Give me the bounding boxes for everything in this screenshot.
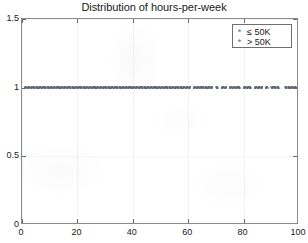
y-tick-label: 0.5 [0, 150, 19, 160]
x-tick-label: 100 [283, 227, 308, 237]
y-tick-label: 1 [0, 82, 19, 92]
x-tick-label: 40 [117, 227, 147, 237]
x-tick-label: 0 [6, 227, 36, 237]
y-tick-label: 1.5 [0, 13, 19, 23]
legend-item-0[interactable]: * ≤ 50K [236, 27, 270, 37]
legend-marker-icon: * [236, 28, 243, 37]
x-tick-label: 80 [228, 227, 258, 237]
legend-item-1[interactable]: * > 50K [236, 37, 271, 47]
figure-canvas: Distribution of hours-per-week 00.511.5 … [0, 0, 308, 243]
legend-marker-icon: * [236, 38, 243, 47]
legend[interactable]: * ≤ 50K * > 50K [232, 24, 292, 48]
legend-item-label: ≤ 50K [247, 27, 270, 37]
x-tick-label: 60 [172, 227, 202, 237]
legend-item-label: > 50K [247, 37, 271, 47]
x-tick-label: 20 [61, 227, 91, 237]
